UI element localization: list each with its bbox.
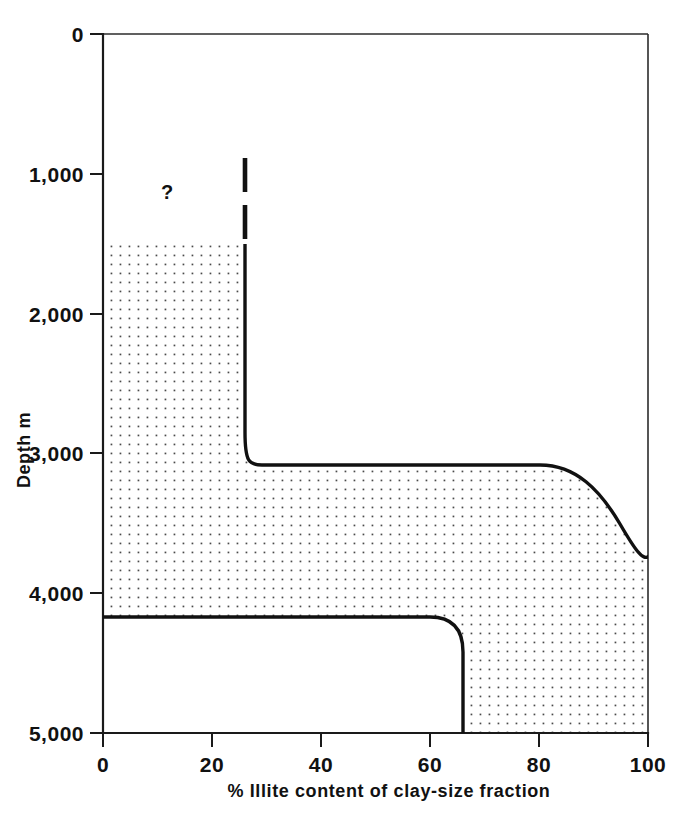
x-axis-ticks [103,733,648,747]
y-axis-title: Depth m [14,412,34,488]
lower-boundary-solid [102,617,463,735]
y-tick-label-3000: 3,000 [29,442,84,465]
y-tick-label-1000: 1,000 [29,163,84,186]
x-tick-label-40: 40 [309,753,333,776]
y-axis-tick-labels: 0 1,000 2,000 3,000 4,000 5,000 [29,23,84,745]
y-tick-label-0: 0 [72,23,84,46]
x-tick-label-0: 0 [97,753,109,776]
y-tick-label-5000: 5,000 [29,722,84,745]
x-tick-label-100: 100 [630,753,667,776]
x-tick-label-20: 20 [200,753,224,776]
stipple-fill-upper [103,244,648,733]
stippled-illite-region [103,244,648,733]
illite-depth-chart: 0 1,000 2,000 3,000 4,000 5,000 0 20 40 … [0,0,686,814]
illite-depth-figure: 0 1,000 2,000 3,000 4,000 5,000 0 20 40 … [0,0,686,814]
x-tick-label-60: 60 [418,753,442,776]
y-tick-label-2000: 2,000 [29,303,84,326]
x-tick-label-80: 80 [527,753,551,776]
y-tick-label-4000: 4,000 [29,582,84,605]
y-axis-ticks [90,34,103,733]
x-axis-title: % Illite content of clay-size fraction [228,781,551,801]
x-axis-tick-labels: 0 20 40 60 80 100 [97,753,666,776]
uncertainty-question-mark: ? [161,181,173,203]
